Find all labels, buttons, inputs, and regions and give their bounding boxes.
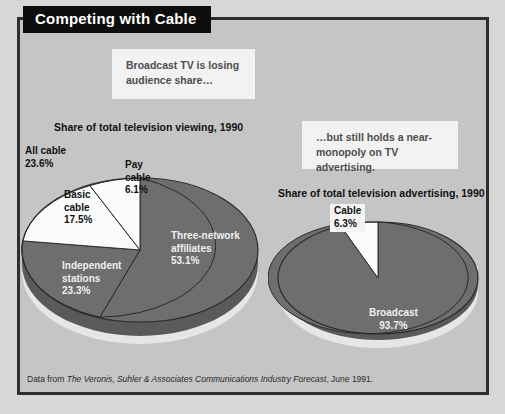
label-broadcast-name: Broadcast: [369, 307, 418, 318]
footnote: Data from The Veronis, Suhler & Associat…: [27, 374, 373, 384]
label-independent-name: Independent: [62, 260, 121, 271]
label-three-network-name2: affiliates: [171, 243, 212, 254]
footnote-prefix: Data from: [27, 374, 67, 384]
label-broadcast-value: 93.7%: [379, 320, 407, 331]
label-all-cable-value: 23.6%: [25, 158, 53, 169]
label-basic-cable-name2: cable: [64, 202, 90, 213]
label-cable-adv-name: Cable: [334, 205, 361, 216]
label-basic-cable: Basic cable 17.5%: [64, 189, 92, 227]
pie-advertising-svg: [268, 200, 493, 360]
label-all-cable-name: All cable: [25, 145, 66, 156]
label-basic-cable-name: Basic: [64, 189, 91, 200]
label-independent-name2: stations: [62, 273, 100, 284]
label-cable-advertising: Cable 6.3%: [330, 204, 365, 232]
callout-right: …but still holds a near-monopoly on TV a…: [302, 121, 458, 169]
label-three-network-value: 53.1%: [171, 255, 199, 266]
label-cable-adv-value: 6.3%: [334, 218, 357, 229]
label-independent-stations: Independent stations 23.3%: [62, 260, 121, 298]
label-independent-value: 23.3%: [62, 285, 90, 296]
label-broadcast: Broadcast 93.7%: [369, 307, 418, 332]
chart-heading-advertising: Share of total television advertising, 1…: [278, 187, 485, 199]
callout-left: Broadcast TV is losing audience share…: [112, 49, 255, 99]
page-title: Competing with Cable: [23, 6, 211, 33]
label-pay-cable-value: 6.1%: [125, 184, 148, 195]
label-pay-cable-name: Pay: [125, 159, 143, 170]
label-pay-cable: Pay cable 6.1%: [125, 159, 151, 197]
footnote-suffix: , June 1991.: [326, 374, 373, 384]
label-all-cable: All cable 23.6%: [25, 145, 66, 170]
pie-chart-advertising: [268, 200, 493, 360]
chart-heading-viewing: Share of total television viewing, 1990: [54, 121, 243, 133]
label-three-network-name: Three-network: [171, 230, 240, 241]
label-pay-cable-name2: cable: [125, 172, 151, 183]
label-basic-cable-value: 17.5%: [64, 214, 92, 225]
infographic-root: Competing with Cable Broadcast TV is los…: [0, 0, 505, 414]
footnote-source: The Veronis, Suhler & Associates Communi…: [67, 374, 327, 384]
label-three-network: Three-network affiliates 53.1%: [171, 230, 240, 268]
